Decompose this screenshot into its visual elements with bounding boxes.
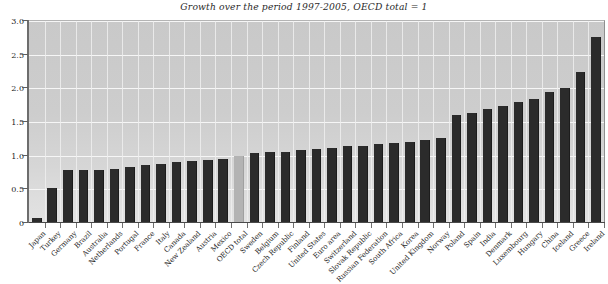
bar [203, 160, 213, 223]
bar [63, 170, 73, 223]
x-tick-mark [402, 223, 403, 228]
bar [358, 146, 368, 223]
x-tick-mark [340, 223, 341, 228]
x-tick-mark [138, 223, 139, 228]
x-tick-mark [386, 223, 387, 228]
bar [374, 144, 384, 223]
x-tick-mark [433, 223, 434, 228]
chart-title: Growth over the period 1997-2005, OECD t… [0, 1, 608, 12]
bar [47, 188, 57, 223]
y-tick-mark [22, 87, 28, 88]
x-tick-mark [215, 223, 216, 228]
y-tick-label: 1.0 [0, 151, 24, 160]
x-tick-mark [107, 223, 108, 228]
x-tick-mark [355, 223, 356, 228]
bar [172, 162, 182, 223]
y-tick-mark [22, 222, 28, 223]
bar [281, 152, 291, 223]
y-tick-mark [22, 20, 28, 21]
bar [529, 99, 539, 223]
bar [420, 140, 430, 223]
x-tick-mark [604, 223, 605, 228]
bar [156, 164, 166, 223]
bar [250, 153, 260, 223]
y-tick-label: 0.5 [0, 185, 24, 194]
x-tick-mark [511, 223, 512, 228]
x-tick-mark [418, 223, 419, 228]
bar [296, 150, 306, 223]
bar [560, 88, 570, 223]
x-tick-mark [464, 223, 465, 228]
bar [110, 169, 120, 223]
bar [327, 148, 337, 223]
x-tick-mark [60, 223, 61, 228]
y-tick-label: 3.0 [0, 17, 24, 26]
bar [94, 170, 104, 223]
x-tick-mark [262, 223, 263, 228]
gridline-vertical [604, 21, 605, 223]
x-tick-mark [526, 223, 527, 228]
y-tick-mark [22, 155, 28, 156]
bar [467, 113, 477, 223]
y-tick-mark [22, 54, 28, 55]
x-tick-mark [76, 223, 77, 228]
x-tick-mark [247, 223, 248, 228]
bar [591, 37, 601, 223]
x-tick-mark [91, 223, 92, 228]
bar [79, 170, 89, 223]
y-tick-label: 0 [0, 219, 24, 228]
x-tick-mark [371, 223, 372, 228]
bar [265, 152, 275, 223]
bar [498, 106, 508, 223]
x-tick-mark [324, 223, 325, 228]
y-tick-label: 2.0 [0, 84, 24, 93]
bars-layer [29, 21, 604, 223]
x-tick-mark [184, 223, 185, 228]
bar [483, 109, 493, 223]
x-tick-mark [122, 223, 123, 228]
bar [436, 138, 446, 224]
x-tick-mark [449, 223, 450, 228]
y-axis-labels: 00.51.01.52.02.53.0 [0, 21, 24, 222]
x-tick-mark [480, 223, 481, 228]
bar [234, 156, 244, 223]
y-tick-label: 2.5 [0, 50, 24, 59]
x-tick-mark [557, 223, 558, 228]
bar [576, 72, 586, 224]
x-tick-mark [542, 223, 543, 228]
y-tick-label: 1.5 [0, 118, 24, 127]
x-tick-mark [153, 223, 154, 228]
plot-area [29, 20, 605, 223]
x-tick-mark [588, 223, 589, 228]
x-tick-mark [231, 223, 232, 228]
x-tick-mark [495, 223, 496, 228]
x-tick-mark [45, 223, 46, 228]
bar [405, 142, 415, 223]
x-tick-mark [309, 223, 310, 228]
x-tick-mark [293, 223, 294, 228]
bar [452, 115, 462, 223]
bar [312, 149, 322, 223]
y-tick-mark [22, 121, 28, 122]
bar [343, 146, 353, 223]
x-tick-mark [573, 223, 574, 228]
x-axis-labels: JapanTurkeyGermanyBrazilAustraliaNetherl… [29, 229, 604, 280]
bar [187, 161, 197, 223]
bar [514, 102, 524, 223]
bar [125, 167, 135, 223]
x-tick-mark [169, 223, 170, 228]
y-tick-mark [22, 188, 28, 189]
x-tick-mark [278, 223, 279, 228]
bar [218, 159, 228, 223]
x-tick-mark [200, 223, 201, 228]
bar [545, 92, 555, 223]
bar [141, 165, 151, 223]
bar [389, 143, 399, 223]
